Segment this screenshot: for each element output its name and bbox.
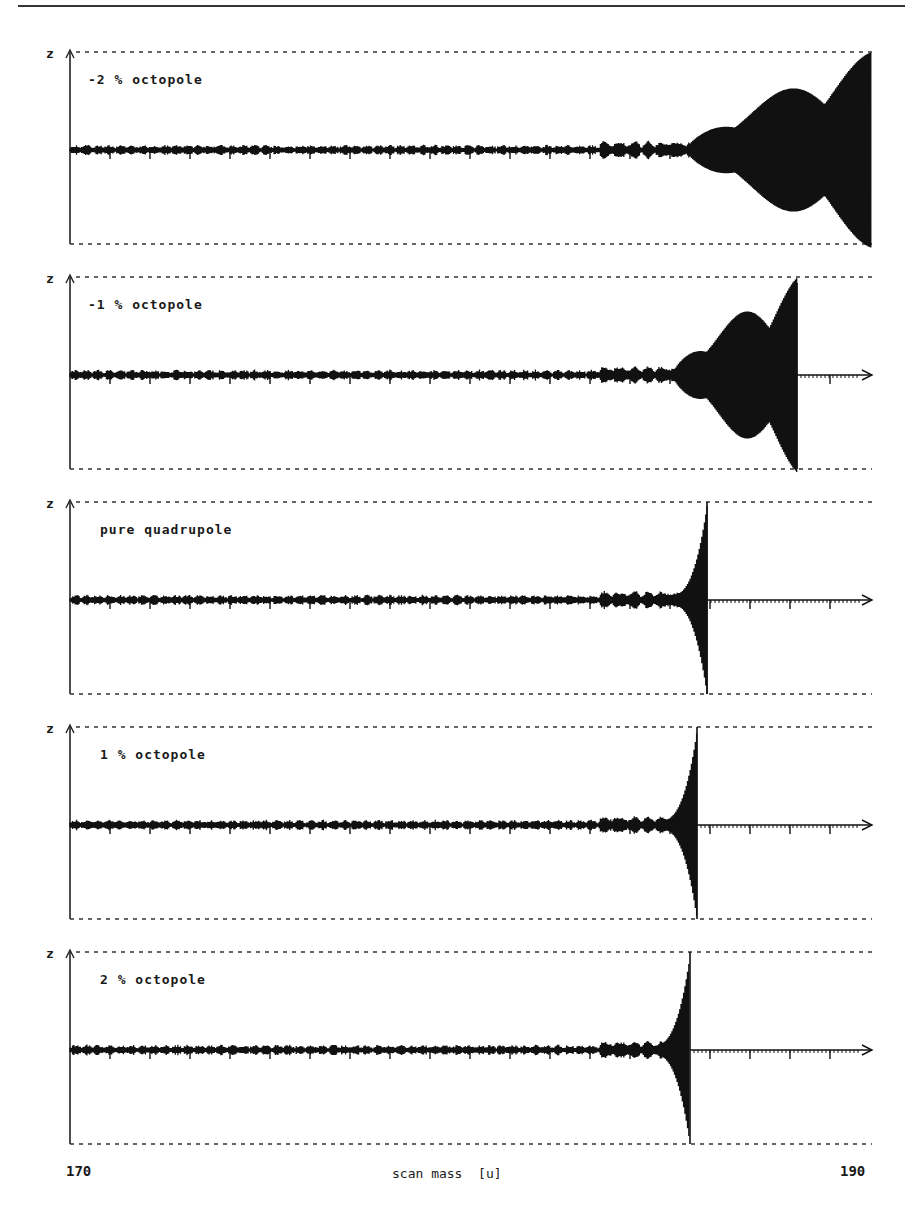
chart-panel: z-1 % octopole bbox=[0, 273, 923, 478]
z-axis-label: z bbox=[46, 271, 54, 286]
chart-panel: z2 % octopole bbox=[0, 948, 923, 1153]
panel-label: pure quadrupole bbox=[100, 522, 232, 537]
panel-label: -2 % octopole bbox=[88, 72, 203, 87]
panel-label: 2 % octopole bbox=[100, 972, 206, 987]
panel-label: -1 % octopole bbox=[88, 297, 203, 312]
x-axis-title: scan mass [u] bbox=[392, 1166, 502, 1181]
z-axis-label: z bbox=[46, 496, 54, 511]
chart-panel: z-2 % octopole bbox=[0, 48, 923, 253]
z-axis-label: z bbox=[46, 721, 54, 736]
z-axis-label: z bbox=[46, 46, 54, 61]
x-min-label: 170 bbox=[66, 1163, 91, 1179]
header-rule bbox=[18, 5, 905, 7]
x-max-label: 190 bbox=[840, 1163, 865, 1179]
chart-panel: zpure quadrupole bbox=[0, 498, 923, 703]
panel-label: 1 % octopole bbox=[100, 747, 206, 762]
z-axis-label: z bbox=[46, 946, 54, 961]
chart-panel: z1 % octopole bbox=[0, 723, 923, 928]
